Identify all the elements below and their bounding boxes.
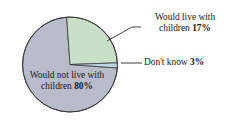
pie-chart-figure: Would not live with children 80% Would l…: [0, 0, 230, 123]
slice-label-text: children: [159, 23, 192, 33]
slice-label-text: children: [41, 81, 74, 91]
slice-label-line-1: Would not live with: [8, 70, 126, 81]
slice-label-text: Don't know: [144, 57, 190, 67]
slice-label-would-live-with-children: Would live with children 17%: [141, 12, 229, 33]
slice-value-17: 17%: [192, 23, 211, 33]
leader-line-live-with: [107, 27, 141, 41]
slice-value-3: 3%: [190, 57, 204, 67]
pie-slice-would-live-with-children: [67, 17, 118, 64]
slice-label-dont-know: Don't know 3%: [144, 57, 204, 68]
slice-label-line-1: Would live with: [141, 12, 229, 23]
slice-label-line-1: Don't know 3%: [144, 57, 204, 68]
slice-label-line-2: children 80%: [8, 81, 126, 92]
slice-label-line-2: children 17%: [141, 23, 229, 34]
slice-label-would-not-live-with-children: Would not live with children 80%: [8, 70, 126, 91]
slice-value-80: 80%: [74, 81, 93, 91]
